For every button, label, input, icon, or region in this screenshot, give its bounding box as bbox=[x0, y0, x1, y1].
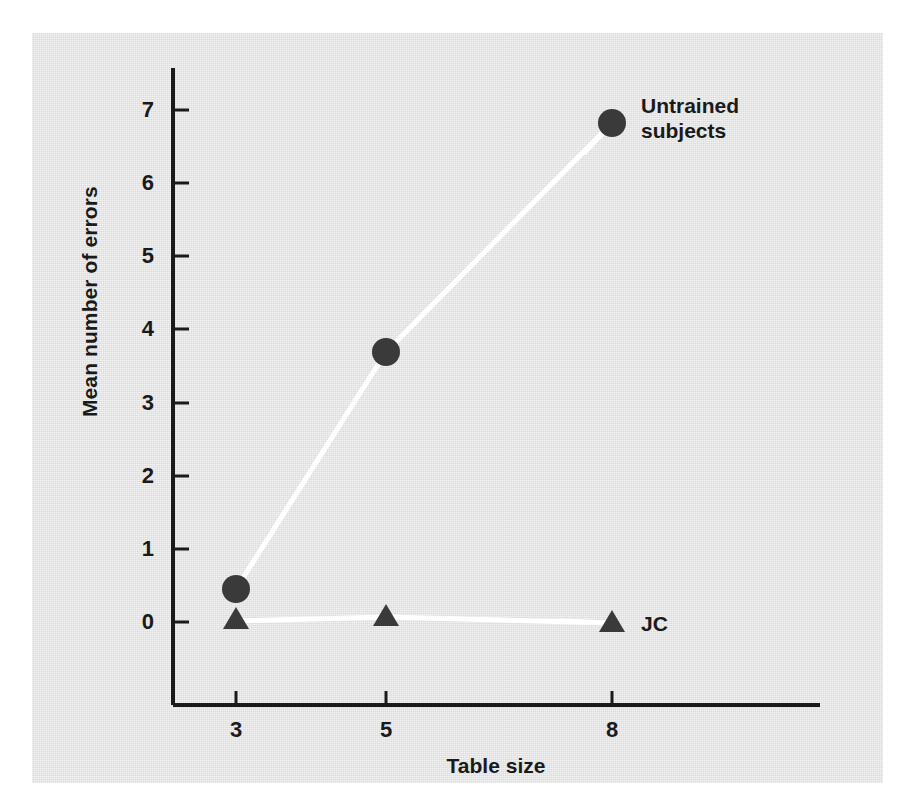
y-tick-label-0: 0 bbox=[118, 611, 154, 633]
series-markers-untrained bbox=[222, 109, 626, 603]
series-label-jc: JC bbox=[641, 612, 668, 637]
y-tick-label-7: 7 bbox=[118, 99, 154, 121]
y-tick-label-5: 5 bbox=[118, 245, 154, 267]
data-point-untrained-5 bbox=[372, 338, 400, 366]
series-line-untrained bbox=[236, 123, 612, 589]
y-axis-title: Mean number of errors bbox=[78, 186, 102, 417]
x-tick-label-3: 3 bbox=[230, 719, 242, 741]
annotation-leader-jc bbox=[560, 621, 612, 623]
y-tick-label-1: 1 bbox=[118, 538, 154, 560]
chart-figure: 7 6 5 4 3 2 1 0 3 5 8 Mean number of err… bbox=[0, 0, 918, 807]
x-axis-title: Table size bbox=[447, 754, 546, 778]
y-tick-marks bbox=[173, 110, 189, 622]
data-point-jc-3 bbox=[223, 607, 249, 629]
series-label-untrained-subjects: Untrained subjects bbox=[641, 94, 739, 144]
x-tick-label-5: 5 bbox=[380, 719, 392, 741]
data-point-untrained-8 bbox=[598, 109, 626, 137]
y-tick-label-4: 4 bbox=[118, 318, 154, 340]
x-tick-label-8: 8 bbox=[606, 719, 618, 741]
y-tick-label-3: 3 bbox=[118, 392, 154, 414]
y-tick-label-2: 2 bbox=[118, 465, 154, 487]
data-point-untrained-3 bbox=[222, 575, 250, 603]
y-tick-label-6: 6 bbox=[118, 172, 154, 194]
x-tick-marks bbox=[236, 691, 612, 705]
series-line-jc bbox=[236, 617, 612, 623]
